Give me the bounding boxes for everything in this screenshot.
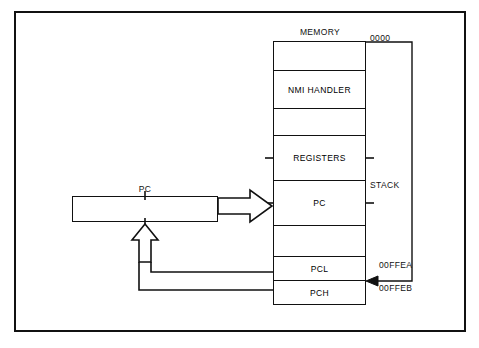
stack-return-arrowhead-icon xyxy=(366,276,378,286)
stack-return-line xyxy=(366,42,412,281)
feedback-up-block-arrow-icon xyxy=(132,224,158,262)
diagram-connectors xyxy=(0,0,479,348)
pcl-feedback-line xyxy=(151,262,273,272)
pc-to-memory-block-arrow-icon xyxy=(218,190,272,222)
pch-feedback-line xyxy=(139,262,273,290)
